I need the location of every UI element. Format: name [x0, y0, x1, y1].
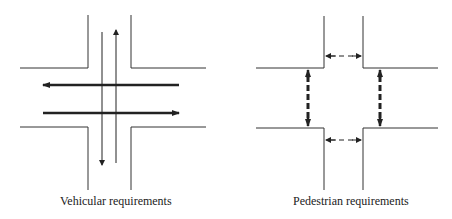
vehicle-arrows [43, 30, 179, 165]
vehicular-intersection [20, 15, 206, 190]
vehicular-caption: Vehicular requirements [60, 194, 172, 209]
pedestrian-caption: Pedestrian requirements [293, 194, 409, 209]
pedestrian-intersection [256, 16, 438, 190]
crosswalk-arrows [308, 56, 380, 140]
curb-lines [256, 16, 438, 190]
curb-lines [20, 15, 206, 190]
intersection-diagrams [0, 0, 452, 219]
